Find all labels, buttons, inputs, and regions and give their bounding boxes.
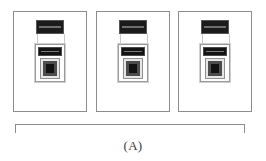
- top-module-2: [119, 20, 147, 34]
- module-spacer-1: [37, 34, 65, 44]
- screen-core-2: [129, 64, 137, 73]
- device-unit-2: [118, 20, 148, 82]
- module-spacer-2: [120, 34, 148, 44]
- lower-module-bar-line-icon: [124, 51, 142, 52]
- lower-module-bar-1: [38, 47, 62, 56]
- figure-caption: (A): [0, 138, 266, 154]
- panel-3: [178, 11, 252, 112]
- bracket-tick-right: [244, 124, 245, 133]
- lower-module-3: [200, 44, 230, 82]
- bracket-tick-left: [15, 124, 16, 133]
- top-module-slot-icon: [204, 26, 226, 28]
- lower-module-bar-2: [121, 47, 145, 56]
- lower-module-bar-line-icon: [41, 51, 59, 52]
- device-unit-3: [200, 20, 230, 82]
- lower-module-2: [118, 44, 148, 82]
- lower-module-1: [35, 44, 65, 82]
- screen-core-3: [211, 64, 219, 73]
- top-module-1: [36, 20, 64, 34]
- top-module-3: [201, 20, 229, 34]
- screen-bezel-2: [126, 61, 140, 76]
- device-unit-1: [35, 20, 65, 82]
- figure-root: (A): [0, 0, 266, 161]
- panel-2: [96, 11, 170, 112]
- screen-bezel-1: [43, 61, 57, 76]
- panel-1: [13, 11, 87, 112]
- bracket-span-line: [15, 124, 245, 125]
- screen-core-1: [46, 64, 54, 73]
- top-module-slot-icon: [122, 26, 144, 28]
- lower-module-bar-line-icon: [206, 51, 224, 52]
- dimension-bracket: [15, 124, 245, 134]
- top-module-slot-icon: [39, 26, 61, 28]
- screen-frame-3: [205, 58, 225, 79]
- screen-bezel-3: [208, 61, 222, 76]
- screen-frame-1: [40, 58, 60, 79]
- lower-module-bar-3: [203, 47, 227, 56]
- module-spacer-3: [202, 34, 230, 44]
- panel-row: [0, 0, 266, 118]
- screen-frame-2: [123, 58, 143, 79]
